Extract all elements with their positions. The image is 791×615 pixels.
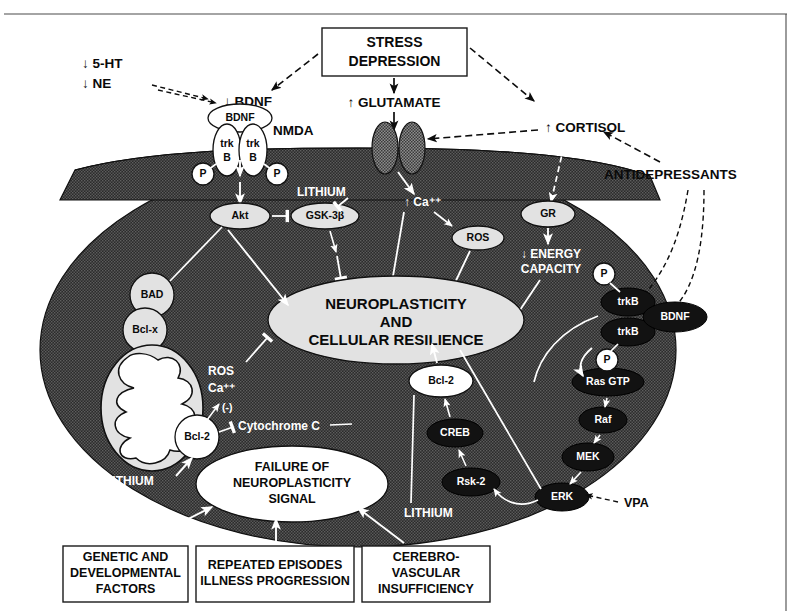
bdnf-right-label: BDNF [660,310,690,322]
ros-ca-label-line1: ROS [208,364,234,378]
nmda-label: NMDA [273,123,314,138]
gr-label: GR [540,207,556,219]
failure-line2: NEUROPLASTICITY [233,476,352,490]
failure-line3: SIGNAL [268,492,316,506]
signaling-pathway-figure: ↓ 5-HT ↓ NE ↓ BDNF STRESS DEPRESSION ↑ G… [0,0,791,615]
vascular-line3: INSUFFICIENCY [378,582,475,596]
arrow-monoamines-to-bdnf [152,85,208,99]
creb-label: CREB [440,426,470,438]
genetic-line2: DEVELOPMENTAL [70,566,181,580]
trkb-left-label-line1: trk [220,137,234,149]
phospho-left-label: P [199,167,206,179]
trkb-right-label-line1: trk [246,137,260,149]
energy-capacity-line2: CAPACITY [521,262,581,276]
arrow-monoamines-to-bdnf-2 [158,90,216,103]
mek-label: MEK [576,450,600,462]
bcl2-creb-label: Bcl-2 [428,374,454,386]
trkb-right-label-line2: B [249,151,257,163]
vascular-line2: VASCULAR [392,566,461,580]
arrow-stress-to-bdnf [272,54,318,90]
antidepressants-label: ANTIDEPRESSANTS [604,167,737,182]
link-cytochrome-to-failure [330,424,352,425]
episodes-line2: ILLNESS PROGRESSION [200,574,349,588]
lithium-vpa-line2: VPA [105,492,129,506]
center-line1: NEUROPLASTICITY [325,295,467,312]
bcl2-mito-label: Bcl-2 [184,430,210,442]
vascular-line1: CEREBRO- [393,550,460,564]
arrow-stress-to-cortisol [470,48,534,101]
calcium-label: ↑ Ca⁺⁺ [404,195,441,209]
phospho-lower-right-label: P [603,353,610,365]
lithium-vpa-line1: LITHIUM [105,474,154,488]
phospho-right-label: P [273,167,280,179]
trkb-lower-right-label: trkB [617,325,638,337]
ros-label: ROS [467,231,490,243]
vpa-erk-label: VPA [624,496,649,510]
depression-label: DEPRESSION [349,53,441,69]
lithium-gsk-label: LITHIUM [297,185,346,199]
nmda-channel-subunit-right [399,122,425,174]
arrow-vpa-to-erk [586,495,618,502]
cytochrome-c-label: Cytochrome C [238,419,320,433]
failure-line1: FAILURE OF [255,460,330,474]
trkb-left-label-line2: B [223,151,231,163]
cortisol-label: ↑ CORTISOL [545,120,625,135]
ros-ca-label-line2: Ca⁺⁺ [208,381,235,395]
bdnf-ligand-label: BDNF [225,111,255,123]
center-line3: CELLULAR RESILIENCE [308,331,483,348]
raf-label: Raf [595,413,612,425]
episodes-line1: REPEATED EPISODES [208,558,343,572]
ras-gtp-label: Ras GTP [586,375,630,387]
lithium-bottom-label: LITHIUM [404,506,453,520]
phospho-upper-right-label: P [600,267,607,279]
serotonin-label: ↓ 5-HT [82,56,123,71]
erk-label: ERK [551,490,574,502]
bad-label: BAD [141,288,164,300]
negative-sign-label: (-) [222,401,233,413]
gsk3b-label: GSK-3β [306,209,345,221]
energy-capacity-line1: ↓ ENERGY [521,247,581,261]
genetic-line1: GENETIC AND [83,550,169,564]
trkb-upper-right-label: trkB [617,295,638,307]
bclx-label: Bcl-x [132,323,158,335]
arrow-genetic-to-failure [140,507,212,543]
genetic-line3: FACTORS [96,582,156,596]
akt-label: Akt [232,209,249,221]
nmda-channel-subunit-left [372,122,398,174]
glutamate-label: ↑ GLUTAMATE [347,95,440,110]
norepinephrine-label: ↓ NE [82,76,111,91]
stress-label: STRESS [366,34,422,50]
rsk2-label: Rsk-2 [457,475,486,487]
center-line2: AND [380,313,413,330]
